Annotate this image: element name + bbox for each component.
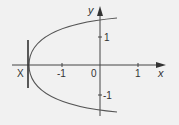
y-axis-arrow-icon: [97, 6, 103, 16]
vertical-line-label: X: [17, 68, 24, 79]
y-axis-label: y: [87, 4, 95, 16]
x-axis-label: x: [157, 67, 164, 79]
y-tick-label-neg1: -1: [103, 90, 112, 101]
parabola-diagram: X -1 0 1 x y 1 -1: [0, 0, 179, 125]
origin-label: 0: [91, 68, 97, 79]
x-tick-label-neg1: -1: [57, 68, 66, 79]
x-tick-label-1: 1: [135, 68, 141, 79]
y-tick-label-1: 1: [104, 32, 110, 43]
diagram-canvas: X -1 0 1 x y 1 -1: [0, 0, 179, 125]
